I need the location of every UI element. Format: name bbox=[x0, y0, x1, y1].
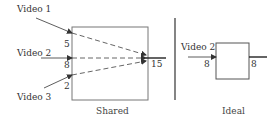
video3-value: 2 bbox=[64, 81, 70, 91]
video1-input-arrow bbox=[36, 18, 72, 33]
shared-output-value: 15 bbox=[151, 59, 163, 69]
video1-dashed-path bbox=[72, 33, 146, 55]
video1-label: Video 1 bbox=[16, 4, 51, 14]
shared-box bbox=[72, 27, 148, 100]
video1-value: 5 bbox=[64, 39, 70, 49]
video3-dashed-path bbox=[72, 61, 146, 75]
video2-label: Video 2 bbox=[16, 48, 51, 58]
ideal-video2-label: Video 2 bbox=[180, 42, 215, 52]
ideal-caption: Ideal bbox=[222, 106, 245, 116]
shared-panel: Video 1 Video 2 Video 3 5 8 2 15 Shared bbox=[16, 4, 166, 116]
ideal-output-value: 8 bbox=[251, 59, 257, 69]
ideal-panel: Video 2 8 8 Ideal bbox=[180, 42, 267, 116]
video3-label: Video 3 bbox=[16, 92, 52, 102]
diagram-canvas: Video 1 Video 2 Video 3 5 8 2 15 Shared … bbox=[0, 0, 280, 119]
ideal-input-value: 8 bbox=[204, 59, 210, 69]
video2-value: 8 bbox=[64, 60, 70, 70]
shared-caption: Shared bbox=[96, 106, 129, 116]
ideal-box bbox=[216, 43, 249, 79]
